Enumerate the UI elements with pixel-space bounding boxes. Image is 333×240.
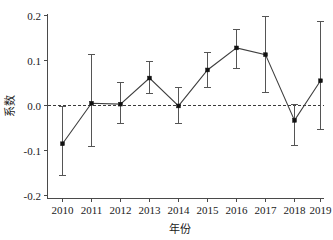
x-axis-title: 年份 xyxy=(169,222,191,236)
data-point-marker xyxy=(119,102,123,106)
x-tick-label: 2010 xyxy=(52,204,75,216)
chart-container: 0.2 0.1 0.0 -0.1 -0.2 2010 2011 2012 201… xyxy=(0,0,333,240)
data-point-marker xyxy=(90,101,94,105)
x-tick-label: 2016 xyxy=(226,204,249,216)
y-tick-label: -0.1 xyxy=(24,145,41,157)
y-tick-label: 0.2 xyxy=(27,10,41,22)
data-point-marker xyxy=(177,104,181,108)
x-tick-label: 2019 xyxy=(310,204,333,216)
data-point-marker xyxy=(319,79,323,83)
x-tick-label: 2014 xyxy=(168,204,191,216)
y-axis-title: 系数 xyxy=(4,95,17,117)
data-point-marker xyxy=(264,53,268,57)
x-tick-label: 2018 xyxy=(284,204,307,216)
data-point-marker xyxy=(148,76,152,80)
data-point-marker xyxy=(293,118,297,122)
data-point-marker xyxy=(61,142,65,146)
data-point-marker xyxy=(206,68,210,72)
x-tick-label: 2013 xyxy=(139,204,162,216)
x-tick-label: 2011 xyxy=(81,204,103,216)
x-tick-label: 2015 xyxy=(197,204,220,216)
y-tick-label: 0.0 xyxy=(27,100,41,112)
coefficient-error-bar-chart: 0.2 0.1 0.0 -0.1 -0.2 2010 2011 2012 201… xyxy=(0,0,333,240)
data-point-marker xyxy=(235,46,239,50)
y-tick-label: -0.2 xyxy=(24,190,41,202)
x-tick-label: 2012 xyxy=(110,204,132,216)
y-tick-label: 0.1 xyxy=(27,55,41,67)
x-tick-label: 2017 xyxy=(255,204,278,216)
